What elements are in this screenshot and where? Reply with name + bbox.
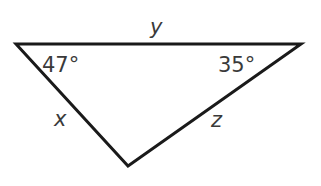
side-label-y: y <box>149 15 163 39</box>
side-label-z: z <box>210 108 223 132</box>
triangle-diagram: y x z 47° 35° <box>0 0 321 186</box>
angle-label-left: 47° <box>42 53 79 77</box>
angle-label-right: 35° <box>218 53 255 77</box>
side-label-x: x <box>53 107 67 131</box>
